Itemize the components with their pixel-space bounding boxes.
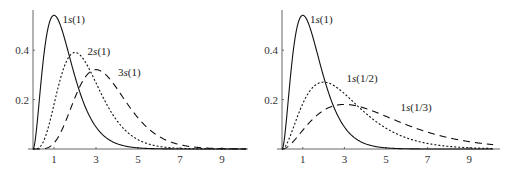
curve-label: 1s(1/3) — [401, 101, 433, 114]
x-tick-label: 7 — [177, 153, 183, 165]
y-tick-label: 0.2 — [15, 94, 29, 106]
curve-1s-1-2- — [282, 82, 493, 149]
chart-panel-left: 135790.20.41s(1)2s(1)3s(1) — [15, 10, 248, 165]
x-tick-label: 1 — [51, 153, 57, 165]
curve-label: 3s(1) — [118, 66, 141, 79]
x-tick-label: 5 — [383, 153, 389, 165]
curve-label: 1s(1) — [62, 13, 85, 26]
curve-label: 1s(1) — [310, 13, 333, 26]
x-tick-label: 9 — [466, 153, 472, 165]
y-tick-label: 0.2 — [264, 94, 278, 106]
curve-1s-1-3- — [282, 104, 493, 149]
x-tick-label: 3 — [342, 153, 348, 165]
y-tick-label: 0.4 — [15, 44, 29, 56]
x-tick-label: 1 — [300, 153, 306, 165]
x-tick-label: 7 — [425, 153, 431, 165]
chart-panel-right: 135790.20.41s(1)1s(1/2)1s(1/3) — [264, 10, 500, 165]
x-tick-label: 9 — [219, 153, 225, 165]
x-tick-label: 5 — [135, 153, 141, 165]
curve-3s-1- — [33, 70, 246, 149]
curve-1s-1- — [282, 15, 493, 149]
y-tick-label: 0.4 — [264, 44, 278, 56]
radial-distribution-charts: 135790.20.41s(1)2s(1)3s(1) 135790.20.41s… — [0, 0, 508, 171]
curve-label: 1s(1/2) — [346, 72, 378, 85]
curve-label: 2s(1) — [88, 45, 111, 58]
x-tick-label: 3 — [93, 153, 99, 165]
curve-1s-1- — [33, 15, 246, 149]
